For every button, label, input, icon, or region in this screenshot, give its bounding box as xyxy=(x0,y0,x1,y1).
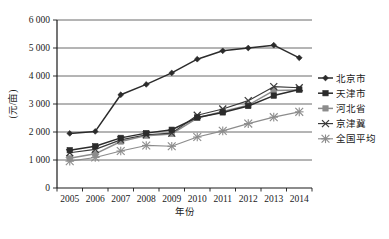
x-axis-tick-label: 2010 xyxy=(188,194,207,204)
y-axis-tick-label: 6 000 xyxy=(29,15,51,25)
data-point-legend-北京市 xyxy=(323,75,329,81)
y-axis-tick-label: 5 000 xyxy=(29,43,51,53)
chart-container: 01 0002 0003 0004 0005 0006 000200520062… xyxy=(0,0,389,239)
legend-label-京津冀: 京津冀 xyxy=(336,118,366,129)
legend-item-北京市[interactable]: 北京市 xyxy=(318,73,366,84)
y-axis-tick-label: 0 xyxy=(45,183,50,193)
data-point-天津市 xyxy=(118,135,123,140)
x-axis-tick-label: 2007 xyxy=(111,194,130,204)
data-point-河北省 xyxy=(67,156,72,161)
x-axis-title: 年份 xyxy=(175,206,195,217)
x-axis-tick-label: 2011 xyxy=(213,194,232,204)
data-point-天津市 xyxy=(271,93,276,98)
data-point-legend-河北省 xyxy=(323,106,328,111)
data-point-天津市 xyxy=(297,87,302,92)
x-axis-tick-label: 2012 xyxy=(239,194,258,204)
x-axis-tick-label: 2006 xyxy=(86,194,105,204)
y-axis-tick-label: 4 000 xyxy=(29,71,51,81)
legend-item-天津市[interactable]: 天津市 xyxy=(318,88,366,99)
legend-item-京津冀[interactable]: 京津冀 xyxy=(318,118,366,129)
x-axis-tick-label: 2013 xyxy=(264,194,283,204)
y-axis-title: (元/亩) xyxy=(7,90,19,119)
legend-label-北京市: 北京市 xyxy=(336,73,366,84)
x-axis-tick-label: 2009 xyxy=(162,194,181,204)
legend-label-全国平均: 全国平均 xyxy=(336,133,376,144)
data-point-天津市 xyxy=(144,130,149,135)
legend-label-河北省: 河北省 xyxy=(336,103,366,114)
y-axis-tick-label: 1 000 xyxy=(29,155,51,165)
x-axis-tick-label: 2014 xyxy=(290,194,309,204)
data-point-天津市 xyxy=(93,144,98,149)
data-point-天津市 xyxy=(67,148,72,153)
data-point-天津市 xyxy=(169,127,174,132)
x-axis-tick-label: 2008 xyxy=(137,194,156,204)
line-chart: 01 0002 0003 0004 0005 0006 000200520062… xyxy=(0,0,389,239)
x-axis-tick-label: 2005 xyxy=(60,194,79,204)
y-axis-tick-label: 3 000 xyxy=(29,99,51,109)
data-point-天津市 xyxy=(195,115,200,120)
legend-label-天津市: 天津市 xyxy=(336,88,366,99)
legend-item-河北省[interactable]: 河北省 xyxy=(318,103,366,114)
data-point-天津市 xyxy=(220,110,225,115)
y-axis-tick-label: 2 000 xyxy=(29,127,51,137)
data-point-legend-天津市 xyxy=(323,91,328,96)
data-point-天津市 xyxy=(246,103,251,108)
legend-item-全国平均[interactable]: 全国平均 xyxy=(318,133,376,144)
